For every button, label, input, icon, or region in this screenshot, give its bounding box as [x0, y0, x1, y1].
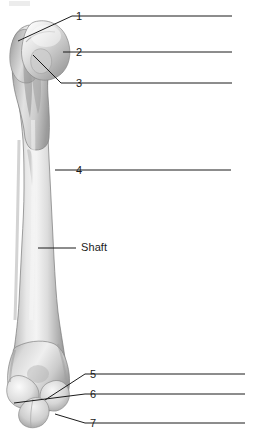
label-7: 7 [90, 418, 96, 429]
label-1: 1 [76, 11, 82, 22]
humerus-labeling-figure: 1234Shaft567 [0, 0, 257, 439]
label-4: 4 [76, 165, 82, 176]
label-5: 5 [90, 369, 96, 380]
label-6: 6 [90, 389, 96, 400]
label-2: 2 [76, 47, 82, 58]
label-shaft: Shaft [81, 242, 107, 253]
leader-7 [55, 414, 245, 423]
shaft-medial-shadow [15, 140, 19, 320]
label-3: 3 [76, 78, 82, 89]
humerus-illustration [0, 0, 257, 439]
shaft-midline-highlight [31, 120, 33, 320]
leader-5 [45, 374, 245, 400]
